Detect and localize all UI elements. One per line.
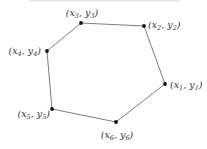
vertex-point-4: [45, 49, 49, 53]
cropped-text-remnant: [30, 0, 180, 2]
vertex-point-3: [79, 21, 83, 25]
vertex-label-3: (x3, y3): [66, 7, 99, 20]
vertex-point-5: [50, 107, 54, 111]
vertex-label-5: (x5, y5): [18, 108, 51, 121]
hexagon-outline: [47, 23, 165, 122]
vertex-point-1: [163, 82, 167, 86]
vertex-label-2: (x2, y2): [148, 19, 181, 32]
vertex-group: [45, 21, 167, 124]
vertex-label-1: (x1, y1): [170, 79, 203, 92]
vertex-point-6: [114, 120, 118, 124]
vertex-label-4: (x4, y4): [9, 45, 42, 58]
hexagon-diagram: (x1, y1)(x2, y2)(x3, y3)(x4, y4)(x5, y5)…: [0, 0, 207, 149]
label-group: (x1, y1)(x2, y2)(x3, y3)(x4, y4)(x5, y5)…: [9, 7, 203, 142]
vertex-point-2: [142, 24, 146, 28]
vertex-label-6: (x6, y6): [101, 129, 134, 142]
